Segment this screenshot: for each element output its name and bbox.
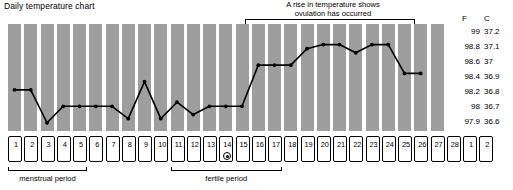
- day-number-label: 9: [139, 141, 153, 149]
- day-number-label: 18: [285, 141, 299, 149]
- day-cell[interactable]: 27: [431, 136, 445, 162]
- day-cell[interactable]: 25: [398, 136, 412, 162]
- scale-label-fahrenheit: 98.6: [458, 57, 480, 66]
- day-number-label: 13: [204, 141, 218, 149]
- day-cell[interactable]: 7: [106, 136, 120, 162]
- temperature-data-point: [321, 43, 325, 47]
- scale-label-fahrenheit: 98.8: [458, 42, 480, 51]
- day-number-label: 20: [318, 141, 332, 149]
- temperature-data-point: [240, 104, 244, 108]
- day-number-label: 12: [188, 141, 202, 149]
- day-number-label: 2: [480, 141, 494, 149]
- day-cell[interactable]: 8: [122, 136, 136, 162]
- temperature-data-point: [224, 104, 228, 108]
- temperature-data-point: [419, 71, 423, 75]
- ovulation-annotation-line2: ovulation has occurred: [245, 9, 421, 18]
- page-title: Daily temperature chart: [4, 1, 95, 11]
- temperature-data-point: [370, 43, 374, 47]
- day-cell[interactable]: 5: [73, 136, 87, 162]
- day-number-label: 1: [9, 141, 23, 149]
- day-number-label: 5: [74, 141, 88, 149]
- day-number-label: 28: [448, 141, 462, 149]
- day-number-label: 25: [399, 141, 413, 149]
- period-bracket: [171, 167, 283, 171]
- day-cell[interactable]: 16: [252, 136, 266, 162]
- period-bracket-label: fertile period: [171, 174, 283, 183]
- temperature-data-point: [126, 117, 130, 121]
- day-cell[interactable]: 4: [57, 136, 71, 162]
- day-cell[interactable]: 11: [171, 136, 185, 162]
- ovulation-annotation: A rise in temperature shows ovulation ha…: [245, 0, 421, 18]
- scale-label-celsius: 36.7: [484, 102, 510, 111]
- temperature-data-point: [289, 63, 293, 67]
- day-cell[interactable]: 14: [219, 136, 233, 162]
- temperature-data-point: [338, 43, 342, 47]
- scale-label-fahrenheit: 98.4: [458, 72, 480, 81]
- day-cell[interactable]: 18: [284, 136, 298, 162]
- day-cell[interactable]: 10: [154, 136, 168, 162]
- day-cell[interactable]: 2: [479, 136, 493, 162]
- day-cell[interactable]: 2: [24, 136, 38, 162]
- temperature-data-point: [61, 104, 65, 108]
- day-cell[interactable]: 3: [41, 136, 55, 162]
- day-number-label: 14: [220, 141, 234, 149]
- day-number-label: 27: [432, 141, 446, 149]
- scale-label-fahrenheit: 97.9: [458, 117, 480, 126]
- day-cell[interactable]: 9: [138, 136, 152, 162]
- temperature-data-point: [45, 121, 49, 125]
- day-number-label: 1: [464, 141, 478, 149]
- temperature-data-point: [110, 104, 114, 108]
- temperature-data-point: [354, 51, 358, 55]
- day-cell[interactable]: 13: [203, 136, 217, 162]
- temperature-data-point: [94, 104, 98, 108]
- temperature-scale: F C 9937.298.837.198.63798.436.998.236.8…: [458, 14, 513, 136]
- temperature-data-point: [386, 43, 390, 47]
- day-cell[interactable]: 20: [317, 136, 331, 162]
- scale-label-fahrenheit: 98.2: [458, 87, 480, 96]
- day-number-label: 24: [383, 141, 397, 149]
- scale-header-c: C: [484, 14, 490, 23]
- day-cell[interactable]: 21: [333, 136, 347, 162]
- day-number-label: 8: [123, 141, 137, 149]
- day-cell[interactable]: 22: [349, 136, 363, 162]
- day-number-label: 21: [334, 141, 348, 149]
- day-number-label: 10: [155, 141, 169, 149]
- day-number-label: 22: [350, 141, 364, 149]
- day-cell[interactable]: 28: [447, 136, 461, 162]
- day-cell[interactable]: 17: [268, 136, 282, 162]
- day-cell[interactable]: 1: [463, 136, 477, 162]
- temperature-data-point: [256, 63, 260, 67]
- scale-label-celsius: 36.9: [484, 72, 510, 81]
- day-number-label: 2: [25, 141, 39, 149]
- scale-header-f: F: [462, 14, 467, 23]
- day-cell[interactable]: 19: [301, 136, 315, 162]
- day-number-row: 1234567891011121314151617181920212223242…: [0, 136, 513, 164]
- temperature-data-point: [78, 104, 82, 108]
- day-number-label: 6: [90, 141, 104, 149]
- temperature-data-point: [273, 63, 277, 67]
- temperature-data-point: [208, 104, 212, 108]
- day-number-label: 3: [42, 141, 56, 149]
- day-cell[interactable]: 26: [414, 136, 428, 162]
- day-cell[interactable]: 6: [89, 136, 103, 162]
- day-cell[interactable]: 15: [236, 136, 250, 162]
- temperature-line-series: [8, 24, 448, 131]
- ovulation-day-marker-icon: [223, 152, 231, 160]
- day-cell[interactable]: 12: [187, 136, 201, 162]
- day-number-label: 23: [367, 141, 381, 149]
- scale-label-celsius: 36.8: [484, 87, 510, 96]
- day-cell[interactable]: 23: [366, 136, 380, 162]
- day-cell[interactable]: 1: [8, 136, 22, 162]
- period-bracket: [8, 167, 87, 171]
- scale-label-celsius: 37.1: [484, 42, 510, 51]
- period-bracket-label: menstrual period: [8, 174, 87, 183]
- scale-label-fahrenheit: 98: [458, 102, 480, 111]
- day-number-label: 16: [253, 141, 267, 149]
- scale-label-fahrenheit: 99: [458, 27, 480, 36]
- day-number-label: 15: [237, 141, 251, 149]
- scale-label-celsius: 36.6: [484, 117, 510, 126]
- day-number-label: 7: [107, 141, 121, 149]
- temperature-data-point: [13, 88, 17, 92]
- day-cell[interactable]: 24: [382, 136, 396, 162]
- temperature-data-point: [143, 80, 147, 84]
